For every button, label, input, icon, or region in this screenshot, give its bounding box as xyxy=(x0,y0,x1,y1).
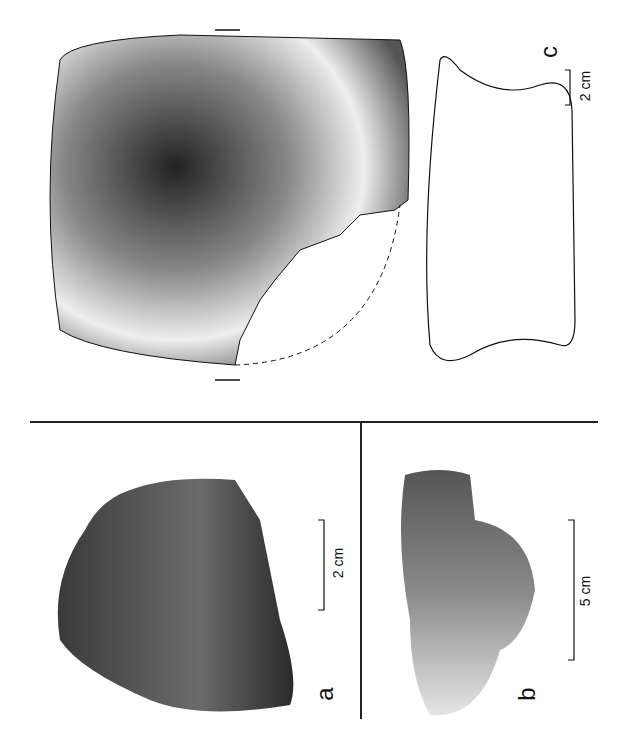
scale-bar-b-text: 5 cm xyxy=(577,576,593,606)
artifact-b-photo xyxy=(360,420,636,740)
panel-label-b: b xyxy=(513,687,541,700)
panel-label-a: a xyxy=(311,687,339,700)
scale-bar-c-text: 2 cm xyxy=(577,71,593,101)
artifact-a-photo xyxy=(0,420,360,740)
scale-bar-a-text: 2 cm xyxy=(330,548,346,578)
artifact-c-drawing xyxy=(0,0,636,420)
panel-label-c: c xyxy=(535,46,563,58)
